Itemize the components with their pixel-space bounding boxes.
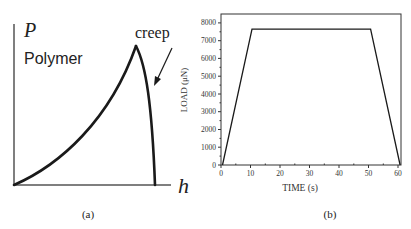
y-axis: 0 1000 2000 3000 4000 5000 6000 7000 800…: [201, 18, 221, 169]
x-tick-label: 10: [247, 169, 255, 178]
y-tick-label: 0: [212, 161, 216, 170]
h-axis-label: h: [178, 173, 189, 198]
y-tick-label: 8000: [201, 18, 216, 27]
x-tick-label: 50: [365, 169, 373, 178]
y-tick-label: 2000: [201, 125, 216, 134]
creep-arrow-icon: [154, 48, 172, 86]
y-tick-label: 4000: [201, 90, 216, 99]
x-axis-title: TIME (s): [282, 183, 318, 194]
y-tick-label: 5000: [201, 72, 216, 81]
y-axis-title: LOAD (μN): [179, 68, 189, 113]
panel-b-load-time-chart: 0 1000 2000 3000 4000 5000 6000 7000 800…: [179, 14, 402, 221]
x-tick-label: 40: [335, 169, 343, 178]
figure: P h Polymer creep (a): [0, 0, 411, 229]
plot-frame: [221, 14, 401, 165]
material-label: Polymer: [24, 50, 83, 67]
panel-label-a: (a): [82, 208, 95, 221]
x-tick-label: 20: [276, 169, 284, 178]
y-tick-label: 1000: [201, 143, 216, 152]
unloading-creep-curve: [136, 46, 155, 185]
y-tick-label: 6000: [201, 54, 216, 63]
x-tick-label: 30: [306, 169, 314, 178]
x-axis: 0 10 20 30 40 50 60: [219, 164, 402, 179]
panel-label-b: (b): [324, 208, 337, 221]
x-tick-label: 60: [394, 169, 402, 178]
y-tick-label: 7000: [201, 36, 216, 45]
y-tick-label: 3000: [201, 107, 216, 116]
p-axis-label: P: [23, 19, 36, 41]
load-profile-line: [223, 29, 401, 165]
x-tick-label: 0: [219, 169, 223, 178]
creep-label: creep: [135, 24, 170, 42]
panel-a-schematic: P h Polymer creep (a): [14, 19, 189, 221]
